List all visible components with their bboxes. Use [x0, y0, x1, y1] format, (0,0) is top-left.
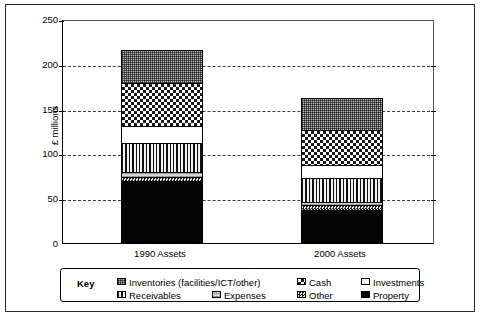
- legend-label-property: Property: [373, 290, 409, 301]
- segment-inventories-1990[interactable]: [122, 51, 202, 83]
- plot-area: [62, 20, 434, 244]
- segment-cash-2000[interactable]: [302, 130, 382, 165]
- legend-row-1: Inventories (facilities/ICT/other) Cash …: [61, 273, 419, 286]
- tick-right-200: [431, 66, 436, 67]
- bar-1990-assets[interactable]: [121, 50, 203, 243]
- legend-row-2: Receivables Expenses Other Property: [61, 286, 419, 299]
- segment-property-2000[interactable]: [302, 210, 382, 242]
- legend-item-expenses[interactable]: Expenses: [212, 286, 266, 299]
- x-axis-labels: 1990 Assets 2000 Assets: [62, 248, 434, 262]
- y-tick-100: 100: [18, 149, 58, 159]
- segment-investments-1990[interactable]: [122, 126, 202, 143]
- segment-receivables-1990[interactable]: [122, 143, 202, 173]
- legend: Key Inventories (facilities/ICT/other) C…: [60, 268, 420, 302]
- gridline-200: [63, 66, 435, 67]
- legend-item-investments[interactable]: Investments: [361, 273, 424, 286]
- legend-swatch-other-icon: [297, 291, 306, 298]
- legend-label-other: Other: [309, 290, 333, 301]
- figure-root: £ millions 250 200 150 100 50 0: [0, 0, 482, 320]
- plot-area-wrapper: [62, 20, 434, 244]
- legend-swatch-investments-icon: [361, 278, 370, 285]
- tick-left-250: [59, 21, 64, 22]
- legend-swatch-inventories-icon: [117, 278, 126, 285]
- legend-item-property[interactable]: Property: [361, 286, 409, 299]
- segment-property-1990[interactable]: [122, 181, 202, 242]
- y-tick-200: 200: [18, 60, 58, 70]
- tick-right-150: [431, 111, 436, 112]
- legend-swatch-cash-icon: [297, 278, 306, 285]
- tick-right-50: [431, 200, 436, 201]
- x-label-1990-assets: 1990 Assets: [90, 248, 230, 259]
- segment-inventories-2000[interactable]: [302, 99, 382, 130]
- y-axis-tick-labels: 250 200 150 100 50 0: [14, 20, 58, 244]
- legend-item-other[interactable]: Other: [297, 286, 333, 299]
- segment-cash-1990[interactable]: [122, 83, 202, 125]
- x-label-2000-assets: 2000 Assets: [270, 248, 410, 259]
- y-tick-150: 150: [18, 105, 58, 115]
- legend-item-cash[interactable]: Cash: [297, 273, 331, 286]
- y-tick-0: 0: [18, 239, 58, 249]
- tick-right-100: [431, 155, 436, 156]
- tick-left-50: [59, 200, 64, 201]
- tick-left-100: [59, 155, 64, 156]
- legend-swatch-property-icon: [361, 291, 370, 298]
- tick-left-150: [59, 111, 64, 112]
- legend-item-inventories[interactable]: Inventories (facilities/ICT/other): [117, 273, 260, 286]
- legend-label-expenses: Expenses: [224, 290, 266, 301]
- segment-investments-2000[interactable]: [302, 165, 382, 178]
- y-tick-50: 50: [18, 194, 58, 204]
- y-tick-250: 250: [18, 15, 58, 25]
- legend-item-receivables[interactable]: Receivables: [117, 286, 181, 299]
- legend-label-receivables: Receivables: [129, 290, 181, 301]
- segment-receivables-2000[interactable]: [302, 178, 382, 201]
- tick-left-200: [59, 66, 64, 67]
- legend-swatch-expenses-icon: [212, 291, 221, 298]
- legend-swatch-receivables-icon: [117, 291, 126, 298]
- bar-2000-assets[interactable]: [301, 98, 383, 243]
